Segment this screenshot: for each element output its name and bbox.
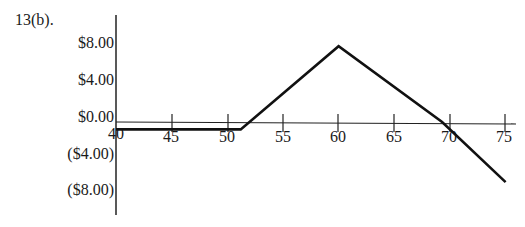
profit-line [116,46,506,182]
x-axis [116,122,516,124]
chart-plot-area [0,0,525,227]
